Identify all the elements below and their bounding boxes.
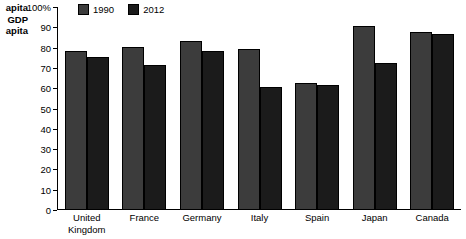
x-category-label-line: France <box>116 212 174 224</box>
y-tick-label: 100% <box>27 2 51 13</box>
x-category-label: Spain <box>288 212 346 235</box>
y-tick-label: 30 <box>40 144 51 155</box>
y-tick-label: 50 <box>40 103 51 114</box>
y-axis-title-line-1: apita <box>0 2 28 14</box>
bar-group <box>403 7 461 209</box>
y-tick-label: 70 <box>40 62 51 73</box>
y-tick-mark <box>53 88 57 89</box>
x-category-label-line: Japan <box>346 212 404 224</box>
x-category-label: Germany <box>173 212 231 235</box>
y-axis-title-line-3: apita <box>0 25 28 37</box>
bar-chart: apita GDP apita 19902012 010203040506070… <box>0 0 466 239</box>
bar-2012 <box>432 34 454 209</box>
y-tick-mark <box>53 27 57 28</box>
x-category-label: Japan <box>346 212 404 235</box>
x-category-label-line: United <box>58 212 116 224</box>
y-tick-label: 60 <box>40 83 51 94</box>
x-category-label-line: Italy <box>231 212 289 224</box>
y-tick-label: 0 <box>46 205 51 216</box>
x-axis-category-labels: UnitedKingdomFranceGermanyItalySpainJapa… <box>58 212 461 235</box>
bar-2012 <box>317 85 339 209</box>
bar-1990 <box>410 32 432 209</box>
y-axis-title: apita GDP apita <box>0 2 28 37</box>
bar-1990 <box>295 83 317 209</box>
y-tick-mark <box>53 169 57 170</box>
y-tick-label: 40 <box>40 123 51 134</box>
y-axis-title-line-2: GDP <box>0 14 28 26</box>
y-tick-mark <box>53 109 57 110</box>
bar-group <box>346 7 404 209</box>
bar-2012 <box>87 57 109 209</box>
y-tick-label: 90 <box>40 22 51 33</box>
y-tick-mark <box>53 149 57 150</box>
bar-1990 <box>238 49 260 209</box>
bar-group <box>288 7 346 209</box>
bar-group <box>58 7 116 209</box>
plot-area: 0102030405060708090100% <box>57 7 461 210</box>
x-category-label: Canada <box>403 212 461 235</box>
y-tick-label: 10 <box>40 184 51 195</box>
bar-2012 <box>260 87 282 209</box>
x-category-label-line: Spain <box>288 212 346 224</box>
bar-group <box>173 7 231 209</box>
x-category-label-line: Germany <box>173 212 231 224</box>
x-axis-line <box>57 209 461 210</box>
bar-group <box>116 7 174 209</box>
y-tick-mark <box>53 48 57 49</box>
x-category-label-line: Kingdom <box>58 224 116 236</box>
bar-2012 <box>144 65 166 209</box>
bar-2012 <box>202 51 224 209</box>
bar-1990 <box>353 26 375 209</box>
y-tick-mark <box>53 210 57 211</box>
bar-1990 <box>180 41 202 209</box>
bar-group <box>231 7 289 209</box>
y-tick-mark <box>53 190 57 191</box>
x-category-label: UnitedKingdom <box>58 212 116 235</box>
y-tick-label: 80 <box>40 42 51 53</box>
bar-groups <box>58 7 461 209</box>
y-tick-label: 20 <box>40 164 51 175</box>
bar-1990 <box>122 47 144 209</box>
x-category-label: France <box>116 212 174 235</box>
x-category-label-line: Canada <box>403 212 461 224</box>
bar-2012 <box>375 63 397 209</box>
bar-1990 <box>65 51 87 209</box>
x-category-label: Italy <box>231 212 289 235</box>
y-tick-mark <box>53 68 57 69</box>
y-tick-mark <box>53 7 57 8</box>
y-tick-mark <box>53 129 57 130</box>
